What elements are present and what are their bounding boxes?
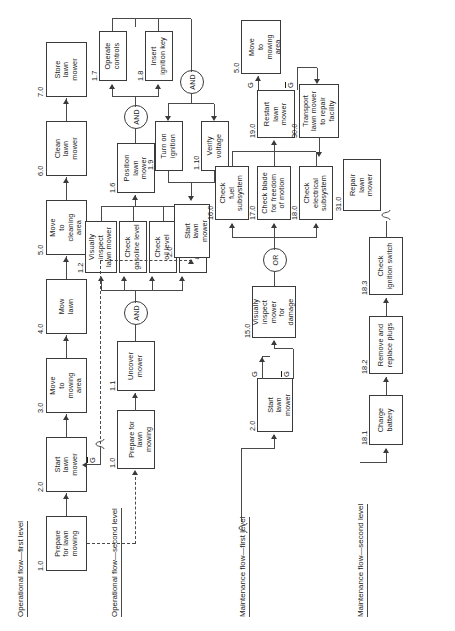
block-number-4-0: 4.0 [36,324,45,334]
ref-block-prepare-for-lawn-mowing[interactable]: Prepare for lawn mowing [117,411,155,468]
block-turn-on-ignition[interactable]: Turn on ignition [155,121,183,171]
ref-number-5-0: 5.0 [232,63,241,73]
merge-1-3 [133,207,134,221]
flow-label-maintenance-second: Maintenance flow—second level [356,504,368,617]
ref-number-2-0-top: 2.0 [165,247,174,257]
block-number-18-0: 18.0 [290,206,299,220]
flow-label-operational-second: Operational flow—second level [110,508,122,617]
block-charge-battery[interactable]: Charge battery [369,395,403,445]
arrowhead [63,494,69,499]
block-uncover-mower[interactable]: Uncover mower [117,341,155,391]
arrowhead [383,377,389,382]
link-30-0-to-31-0 [319,138,320,152]
block-number-7-0: 7.0 [36,87,45,97]
block-clean-lawn-mower[interactable]: Clean lawn mower [46,121,87,176]
arrowhead [149,276,155,281]
block-insert-ignition-key[interactable]: Insert ignition key [145,31,173,81]
arrowhead [132,195,138,200]
and3-feed-vert [135,18,191,19]
arrowhead [271,340,277,345]
restart-gbar-vert [297,67,317,68]
arrowhead [271,434,277,439]
dash-link-1-0-to-ref-1-0 [135,472,136,544]
arrowhead [383,448,389,453]
block-transport-lawn-mower-to-repair-facility[interactable]: Transport lawn mower to repair facility [299,84,339,138]
arrowhead [132,393,138,398]
arrowhead [63,99,69,104]
merge-17-0 [274,152,275,166]
gbar-branch [293,349,294,379]
block-number-18-3: 18.3 [360,281,369,295]
arrowhead [229,223,235,228]
link-18-3-out [386,221,387,237]
block-number-1-2: 1.2 [76,263,85,273]
block-move-to-cleaning-area[interactable]: Move to cleaning area [46,200,87,255]
block-number-19-0: 19.0 [248,124,257,138]
arrowhead [255,76,261,81]
block-check-fuel-subsystem[interactable]: Check fuel subsystem [215,166,249,220]
block-number-15-0: 15.0 [243,324,252,338]
block-check-ignition-switch[interactable]: Check ignition switch [369,237,403,295]
maint-entry-horiz [241,449,242,522]
arrowhead [63,336,69,341]
ffbd-canvas: Operational flow—first level 1.0 Prepare… [0,0,455,631]
arrowhead [188,259,194,264]
and1-bus-vertical [101,290,170,291]
arrowhead [98,276,104,281]
block-mow-lawn[interactable]: Mow lawn [46,279,87,334]
ref-block-start-lawn-mower-maint[interactable]: Start lawn mower [257,379,293,431]
block-start-lawn-mower[interactable]: Start lawn mower [46,437,87,492]
dash-vert-ref-2-0 [100,260,192,261]
block-number-1-8: 1.8 [136,71,145,81]
block-prepare-for-lawn-mowing[interactable]: Prepare for lawn mowing [46,516,87,571]
merge-out-ref-2-0 [191,183,192,196]
block-check-blade-for-freedom-of-motion[interactable]: Check blade for freedom of motion [257,166,291,220]
signal-label-g-maint: G [250,371,259,377]
block-number-3-0: 3.0 [36,403,45,413]
block-number-1-9: 1.9 [146,160,155,170]
link-15-0-to-or [274,272,275,286]
block-move-to-mowing-area[interactable]: Move to mowing area [46,358,87,413]
block-number-6-0: 6.0 [36,166,45,176]
merge-1-9 [168,171,169,183]
branch-2-0-right [100,449,101,465]
or-out [274,238,275,250]
ref-number-1-0: 1.0 [108,458,117,468]
and3-to-1-9 [168,104,169,116]
block-visually-inspect-lawn-mower[interactable]: Visually inspect lawn mower [85,221,117,273]
block-number-1-7: 1.7 [90,71,99,81]
block-number-18-1: 18.1 [360,431,369,445]
maint-entry-vert [241,448,274,449]
block-operate-controls[interactable]: Operate controls [99,31,127,81]
block-remove-and-replace-plugs[interactable]: Remove and replace plugs [369,316,403,374]
block-check-gasoline-level[interactable]: Check gasoline level [119,221,147,273]
ref-block-start-lawn-mower-top[interactable]: Start lawn mower [174,205,210,257]
block-number-1-10: 1.10 [192,156,201,170]
block-store-lawn-mower[interactable]: Store lawn mower [46,42,87,97]
arrowhead [132,470,138,475]
signal-label-g-bar-restart: G [286,82,295,88]
block-number-16-0: 16.0 [206,206,215,220]
restart-gbar-link [297,68,298,90]
maint2-entry-vert [360,462,386,463]
arrowhead [313,223,319,228]
link-1-6-to-and-2 [135,129,136,143]
gate-or: OR [263,248,287,272]
block-number-1-6: 1.6 [108,183,117,193]
arrowhead [109,84,115,89]
diagram-stage: Operational flow—first level 1.0 Prepare… [0,0,455,631]
arrowhead [63,178,69,183]
and2-bus [112,96,158,97]
arrowhead [155,84,161,89]
block-check-electrical-subsystem[interactable]: Check electrical subsystem [299,166,333,220]
ref-block-move-to-mowing-area[interactable]: Move to mowing area [241,21,281,73]
merge-1-2 [101,207,102,221]
arrowhead [271,140,277,145]
block-number-2-0: 2.0 [36,482,45,492]
gbar-branch-vert [274,348,293,349]
and2-out [135,97,136,107]
block-verify-voltage[interactable]: Verify voltage [201,121,229,171]
link-1-1-to-and-1 [135,325,136,341]
block-visually-inspect-mower-for-damage[interactable]: Visually inspect mower for damage [252,286,296,338]
block-repair-lawn-mower[interactable]: Repair lawn mower [343,159,381,211]
